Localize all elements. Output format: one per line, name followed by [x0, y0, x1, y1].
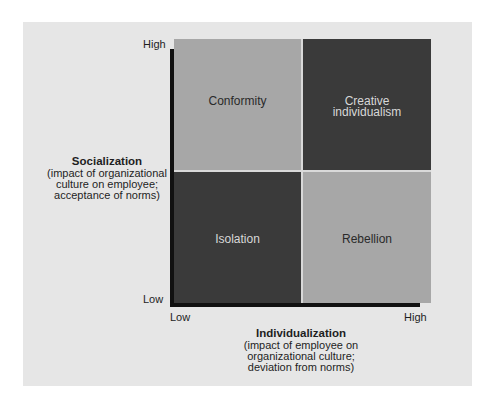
y-axis-high-label: High	[143, 38, 166, 50]
quadrant-label: Rebellion	[342, 234, 392, 245]
quadrant-isolation: Isolation	[174, 172, 301, 303]
x-axis-subtitle-line: deviation from norms)	[232, 362, 370, 373]
quadrant-label: Creative individualism	[333, 96, 402, 118]
y-axis-line	[170, 49, 174, 307]
y-axis-subtitle-line: acceptance of norms)	[44, 190, 170, 201]
x-axis-title: Individualization (impact of employee on…	[232, 328, 370, 373]
y-axis-title-text: Socialization	[44, 156, 170, 167]
quadrant-creative-individualism: Creative individualism	[303, 39, 431, 170]
x-axis-high-label: High	[404, 311, 427, 323]
quadrant-rebellion: Rebellion	[303, 172, 431, 303]
quadrant-label-line: individualism	[333, 105, 402, 119]
x-axis-low-label: Low	[170, 311, 190, 323]
y-axis-low-label: Low	[143, 293, 163, 305]
quadrant-conformity: Conformity	[174, 39, 301, 170]
quadrant-label: Conformity	[208, 96, 266, 107]
horizontal-divider	[174, 170, 431, 172]
x-axis-title-text: Individualization	[232, 328, 370, 339]
quadrant-label: Isolation	[215, 234, 260, 245]
x-axis-line	[170, 303, 420, 307]
y-axis-title: Socialization (impact of organizational …	[44, 156, 170, 201]
